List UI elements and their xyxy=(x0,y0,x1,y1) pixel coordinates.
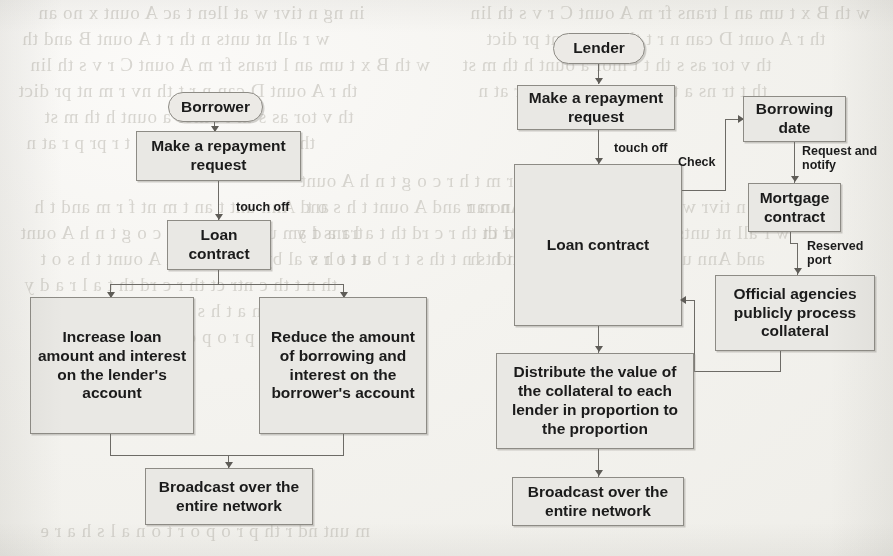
node-loan-contract: Loan contract xyxy=(514,164,682,326)
node-mortgage-contract: Mortgage contract xyxy=(748,183,841,232)
arrowhead-down xyxy=(595,78,603,84)
node-broadcast-entire-network: Broadcast over the entire network xyxy=(145,468,313,525)
node-loan-contract: Loan contract xyxy=(167,220,271,270)
edge-label-check: Check xyxy=(678,155,716,169)
node-label: Broadcast over the entire network xyxy=(150,478,308,516)
node-broadcast-entire-network: Broadcast over the entire network xyxy=(512,477,684,526)
node-label: Borrower xyxy=(173,98,258,117)
node-make-repayment-request: Make a repayment request xyxy=(136,131,301,181)
node-label: Official agencies publicly process colla… xyxy=(720,285,870,342)
node-official-agencies-collateral: Official agencies publicly process colla… xyxy=(715,275,875,351)
node-label: Borrowing date xyxy=(748,100,841,138)
node-borrowing-date: Borrowing date xyxy=(743,96,846,142)
arrowhead-down xyxy=(794,268,802,274)
connector-reduce-stem xyxy=(343,434,344,456)
scanned-page: in ng n tivr w at llen t ac A ount x no … xyxy=(0,0,893,556)
node-make-repayment-request: Make a repayment request xyxy=(517,85,675,130)
chart-lender-flow: Lender Make a repayment request touch of… xyxy=(450,0,893,556)
chart-borrower-flow: Borrower Make a repayment request touch … xyxy=(0,0,450,556)
connector-agencies-return-down xyxy=(780,351,781,372)
node-lender: Lender xyxy=(553,33,645,64)
arrowhead-down xyxy=(791,176,799,182)
node-reduce-borrowing-amount: Reduce the amount of borrowing and inter… xyxy=(259,297,427,434)
node-label: Loan contract xyxy=(519,236,677,255)
connector-check-riser xyxy=(725,119,726,191)
edge-label-request-and-notify: Request and notify xyxy=(802,144,890,173)
node-label: Mortgage contract xyxy=(753,189,836,227)
connector-loan-contract-stem xyxy=(218,270,219,285)
node-label: Make a repayment request xyxy=(522,89,670,127)
edge-label-touch-off: touch off xyxy=(236,200,289,214)
connector-agencies-return-up xyxy=(694,300,695,372)
node-label: Broadcast over the entire network xyxy=(517,483,679,521)
connector-loan-to-check-out xyxy=(682,190,726,191)
node-label: Reduce the amount of borrowing and inter… xyxy=(264,328,422,404)
arrowhead-down xyxy=(595,470,603,476)
arrowhead-left xyxy=(680,296,686,304)
connector-agencies-return-left xyxy=(694,371,781,372)
connector-merge-bus xyxy=(110,455,344,456)
node-label: Distribute the value of the collateral t… xyxy=(501,363,689,439)
node-borrower: Borrower xyxy=(168,92,263,122)
node-label: Increase loan amount and interest on the… xyxy=(35,328,189,404)
edge-label-reserved-port: Reserved port xyxy=(807,239,887,268)
node-label: Loan contract xyxy=(172,226,266,264)
node-label: Lender xyxy=(558,39,640,58)
node-distribute-collateral-value: Distribute the value of the collateral t… xyxy=(496,353,694,449)
connector-split-bus xyxy=(110,284,344,285)
node-label: Make a repayment request xyxy=(141,137,296,175)
connector-increase-stem xyxy=(110,434,111,456)
arrowhead-down xyxy=(595,346,603,352)
node-increase-loan-amount: Increase loan amount and interest on the… xyxy=(30,297,194,434)
edge-label-touch-off: touch off xyxy=(614,141,667,155)
